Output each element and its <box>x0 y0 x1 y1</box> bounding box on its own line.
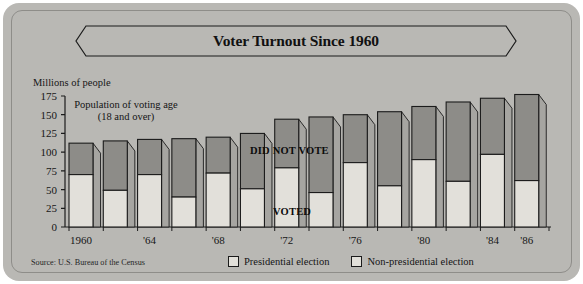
y-tick-label: 25 <box>31 202 57 214</box>
bar-side-face <box>367 115 375 227</box>
bar-group <box>480 98 512 227</box>
legend-item-non-presidential: Non-presidential election <box>351 256 473 267</box>
bar-segment-voted <box>69 175 93 227</box>
bar-segment-voted <box>103 190 127 227</box>
x-tick-label: '86 <box>520 234 533 246</box>
bar-segment-voted <box>480 154 504 227</box>
bar-segment-did-not-vote <box>69 143 93 174</box>
bar-segment-voted <box>206 173 230 227</box>
bar-segment-did-not-vote <box>480 98 504 154</box>
legend-item-presidential: Presidential election <box>228 256 329 267</box>
y-tick-label: 0 <box>31 221 57 233</box>
annotation-population: Population of voting age (18 and over) <box>74 99 178 123</box>
bar-segment-voted <box>275 168 299 227</box>
source-note: Source: U.S. Bureau of the Census <box>31 258 145 267</box>
bar-side-face <box>93 143 101 227</box>
legend-swatch-non-presidential-icon <box>351 256 362 267</box>
bar-group <box>412 106 444 227</box>
bar-segment-voted <box>343 163 367 227</box>
bar-segment-did-not-vote <box>206 137 230 173</box>
bar-side-face <box>470 102 478 227</box>
annotation-population-line1: Population of voting age <box>74 99 178 111</box>
bar-segment-did-not-vote <box>138 139 162 174</box>
bar-side-face <box>402 112 410 227</box>
legend: Presidential election Non-presidential e… <box>228 256 474 267</box>
y-tick-label: 150 <box>31 109 57 121</box>
bar-group <box>309 117 341 227</box>
bar-segment-did-not-vote <box>378 112 402 186</box>
figure-card: Voter Turnout Since 1960 Millions of peo… <box>3 3 580 281</box>
bar-segment-did-not-vote <box>172 139 196 197</box>
bar-group <box>69 143 101 227</box>
bar-group <box>378 112 410 227</box>
bar-segment-did-not-vote <box>412 106 436 159</box>
bar-segment-voted <box>515 181 539 227</box>
bar-segment-voted <box>412 160 436 227</box>
bar-segment-did-not-vote <box>275 119 299 168</box>
x-tick-label: '80 <box>417 234 430 246</box>
y-tick-label: 50 <box>31 184 57 196</box>
x-tick-label: '72 <box>280 234 293 246</box>
y-tick-label: 75 <box>31 165 57 177</box>
x-tick-label: 1960 <box>70 234 92 246</box>
bar-segment-voted <box>138 175 162 227</box>
plot-area: Millions of people 0255075100125150175 1… <box>3 3 580 281</box>
chart-figure: Voter Turnout Since 1960 Millions of peo… <box>0 0 583 284</box>
annotation-population-line2: (18 and over) <box>74 111 178 123</box>
legend-swatch-presidential-icon <box>228 256 239 267</box>
bar-group <box>515 95 547 227</box>
bar-side-face <box>504 98 512 227</box>
annotation-voted: VOTED <box>273 206 311 217</box>
bar-segment-voted <box>172 197 196 227</box>
bar-group <box>103 141 135 227</box>
bar-segment-did-not-vote <box>240 133 264 188</box>
bar-side-face <box>127 141 135 227</box>
bar-side-face <box>333 117 341 227</box>
x-tick-label: '84 <box>486 234 499 246</box>
x-tick-label: '64 <box>143 234 156 246</box>
bar-group <box>172 139 204 227</box>
bar-segment-voted <box>378 186 402 227</box>
bar-group <box>446 102 478 227</box>
bar-segment-did-not-vote <box>446 102 470 181</box>
bar-group <box>206 137 238 227</box>
y-tick-label: 100 <box>31 146 57 158</box>
bar-segment-voted <box>309 193 333 227</box>
legend-label-presidential: Presidential election <box>244 256 329 267</box>
y-tick-label: 125 <box>31 127 57 139</box>
bar-side-face <box>436 106 444 227</box>
bar-side-face <box>230 137 238 227</box>
bar-group <box>343 115 375 227</box>
x-tick-label: '68 <box>212 234 225 246</box>
x-tick-label: '76 <box>349 234 362 246</box>
bar-segment-voted <box>240 189 264 227</box>
legend-label-non-presidential: Non-presidential election <box>367 256 473 267</box>
bar-segment-did-not-vote <box>103 141 127 190</box>
annotation-did-not-vote: DID NOT VOTE <box>250 145 329 156</box>
bar-group <box>138 139 170 227</box>
bar-segment-did-not-vote <box>343 115 367 163</box>
bar-side-face <box>162 139 170 227</box>
bar-side-face <box>196 139 204 227</box>
bar-segment-did-not-vote <box>515 95 539 181</box>
bar-segment-voted <box>446 181 470 227</box>
y-tick-label: 175 <box>31 90 57 102</box>
bar-side-face <box>539 95 547 227</box>
